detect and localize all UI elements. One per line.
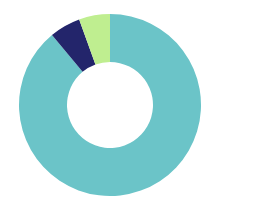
- donut-slice-group: [19, 14, 201, 196]
- donut-chart-canvas: [0, 0, 264, 212]
- donut-chart: [0, 0, 264, 212]
- donut-slice-1[interactable]: [19, 14, 201, 196]
